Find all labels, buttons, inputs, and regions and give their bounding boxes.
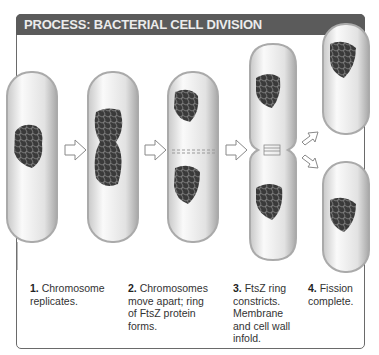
daughter-cell-bottom — [323, 162, 369, 272]
arrow-icon — [65, 140, 86, 160]
arrow-icon — [226, 140, 247, 160]
chromosome — [95, 108, 123, 186]
arrow-icon — [145, 140, 166, 160]
cell-step-4 — [250, 44, 296, 260]
step-4-caption: 4. Fission complete. — [308, 282, 363, 307]
cell-step-1 — [7, 72, 57, 242]
step-3-caption: 3. FtsZ ring constricts. Membrane and ce… — [233, 282, 298, 345]
daughter-cell-top — [323, 24, 369, 134]
arrow-down-icon — [302, 155, 318, 168]
cell-step-2 — [88, 72, 138, 242]
step-1-caption: 1. Chromosome replicates. — [30, 282, 115, 307]
arrow-up-icon — [302, 132, 318, 145]
cell-step-3 — [168, 72, 218, 242]
step-2-caption: 2. Chromosomes move apart; ring of FtsZ … — [128, 282, 213, 332]
